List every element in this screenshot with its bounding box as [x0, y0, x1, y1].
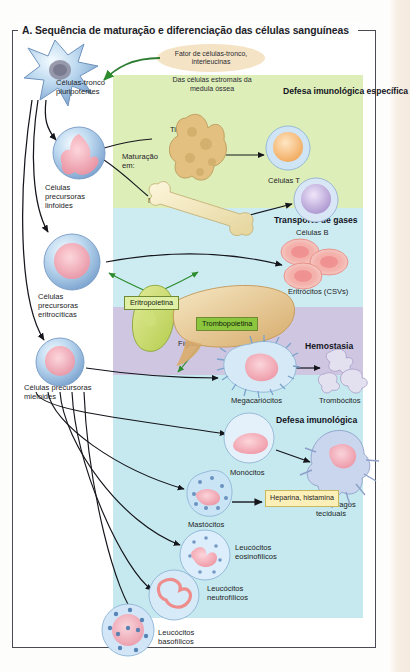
label-t-cells: Células T	[268, 176, 300, 185]
band-title-erythroid: Transporte de gases	[274, 215, 358, 225]
label-liver: Fígado	[178, 339, 202, 348]
label-monocytes: Monócitos	[230, 468, 265, 477]
page-margin-strip	[388, 0, 410, 672]
label-kidney: Rins	[143, 334, 158, 343]
label-pluripotent-stem-cells: Células-tronco pluripotentes	[56, 78, 105, 96]
scf-line-2: interleucinas	[192, 58, 231, 66]
erythropoietin-box: Eritropoietina	[124, 296, 179, 310]
thrombopoietin-box: Trombopoietina	[196, 317, 258, 331]
figure-page: A. Sequência de maturação e diferenciaçã…	[0, 0, 410, 672]
label-erythrocytes: Eritrócitos (CSVs)	[288, 287, 348, 296]
band-title-hemostasis: Hemostasia	[305, 341, 353, 351]
stem-cell-factor-callout: Fator de células-tronco, interleucinas	[157, 44, 265, 72]
figure-title-text: A. Sequência de maturação e diferenciaçã…	[22, 25, 349, 36]
label-neutrophils: Leucócitos neutrofílicos	[207, 584, 248, 602]
label-thymus: Timo	[170, 125, 187, 134]
figure-title: A. Sequência de maturação e diferenciaçã…	[18, 22, 358, 38]
mediators-box: Heparina, histamina	[265, 490, 339, 507]
label-myeloid-precursors: Células precursoras mieloides	[24, 383, 92, 401]
label-thrombocytes: Trombócitos	[319, 396, 361, 405]
stromal-source-note: Das células estromais da medula óssea	[162, 76, 262, 94]
band-title-immune: Defesa imunológica	[276, 415, 357, 425]
label-eosinophils: Leucócitos eosinofílicos	[235, 543, 277, 561]
label-bone-marrow: Medula óssea	[148, 196, 195, 205]
label-basophils: Leucócitos basofílicos	[158, 628, 194, 646]
label-megakaryocytes: Megacariócitos	[231, 396, 282, 405]
scf-line-1: Fator de células-tronco,	[175, 50, 247, 58]
label-lymphoid-precursors: Células precursoras linfoides	[45, 183, 85, 210]
label-erythroid-precursors: Células precursoras eritrocíticas	[38, 292, 78, 319]
label-mast-cells: Mastócitos	[188, 520, 224, 529]
band-title-lymphoid: Defesa imunológica específica	[283, 86, 408, 96]
label-maturation-in: Maturação em:	[122, 152, 158, 170]
label-b-cells: Células B	[296, 228, 329, 237]
